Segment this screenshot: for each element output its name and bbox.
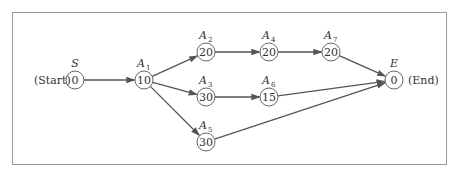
node-duration: 0 [391, 74, 398, 87]
node-label-subscript: 6 [271, 81, 276, 89]
node-a3: 30A3 [197, 74, 215, 106]
node-duration: 20 [262, 46, 276, 59]
node-a6: 15A6 [260, 74, 278, 106]
node-label: A [198, 29, 207, 42]
node-duration: 10 [137, 74, 151, 87]
node-a7: 20A7 [322, 29, 340, 61]
node-a5: 30A5 [197, 119, 215, 151]
node-label-subscript: 3 [208, 81, 212, 89]
edge-a7-e [339, 56, 385, 76]
node-label-subscript: 7 [333, 36, 337, 44]
node-duration: 15 [262, 91, 276, 104]
node-duration: 0 [72, 74, 79, 87]
start-label: (Start) [34, 74, 71, 87]
edges-group [84, 52, 385, 139]
node-label-subscript: 5 [208, 126, 212, 134]
node-label: A [261, 74, 270, 87]
activity-network-diagram: 0S10A120A230A330A520A415A620A70E (Start)… [0, 0, 461, 175]
node-duration: 30 [199, 136, 213, 149]
node-label-subscript: 2 [208, 36, 212, 44]
node-label: A [323, 29, 332, 42]
node-label-subscript: 1 [146, 64, 150, 72]
node-label: A [261, 29, 270, 42]
edge-a1-a2 [152, 56, 197, 76]
node-label: A [198, 119, 207, 132]
node-label: A [198, 74, 207, 87]
edge-a5-e [215, 83, 385, 139]
node-a2: 20A2 [197, 29, 215, 61]
node-label: A [136, 57, 145, 70]
node-label: E [389, 57, 398, 70]
node-label: S [71, 57, 79, 70]
node-duration: 20 [199, 46, 213, 59]
node-duration: 20 [324, 46, 338, 59]
node-duration: 30 [199, 91, 213, 104]
node-a1: 10A1 [135, 57, 153, 89]
end-label: (End) [408, 74, 439, 87]
edge-a1-a3 [153, 82, 197, 94]
node-e: 0E [385, 57, 403, 89]
node-a4: 20A4 [260, 29, 278, 61]
node-label-subscript: 4 [271, 36, 276, 44]
